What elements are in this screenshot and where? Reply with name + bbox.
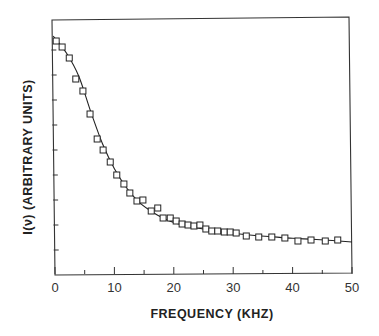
data-point-square (53, 38, 59, 44)
data-point-square (203, 226, 209, 232)
x-tick-label: 40 (285, 280, 299, 295)
data-point-square (221, 229, 227, 235)
data-point-square (269, 234, 275, 240)
data-point-square (197, 222, 203, 228)
data-point-square (335, 237, 341, 243)
data-point-square (160, 215, 166, 221)
data-point-square (127, 190, 133, 196)
data-point-square (282, 235, 288, 241)
data-point-square (134, 198, 140, 204)
y-axis-title: I(ν) (ARBITRARY UNITS) (21, 79, 35, 234)
data-point-square (155, 205, 161, 211)
x-tick-label: 0 (51, 280, 58, 295)
x-tick-label: 50 (345, 280, 359, 295)
data-point-square (215, 228, 221, 234)
x-tick-label: 20 (167, 280, 181, 295)
data-point-square (191, 223, 197, 229)
data-point-square (295, 238, 301, 244)
data-point-square (322, 238, 328, 244)
data-point-square (256, 234, 262, 240)
data-point-square (121, 181, 127, 187)
data-point-square (140, 197, 146, 203)
data-point-square (80, 88, 86, 94)
data-point-square (209, 228, 215, 234)
chart: 01020304050 FREQUENCY (KHZ) I(ν) (ARBITR… (0, 0, 379, 336)
data-point-square (100, 147, 106, 153)
data-point-square (59, 44, 65, 50)
x-tick-label: 30 (226, 280, 240, 295)
data-point-square (167, 215, 173, 221)
data-point-square (173, 218, 179, 224)
data-point-square (107, 159, 113, 165)
data-markers (53, 38, 341, 244)
data-point-square (233, 230, 239, 236)
data-point-square (148, 208, 154, 214)
data-point-square (308, 237, 314, 243)
data-point-square (66, 55, 72, 61)
data-point-square (94, 136, 100, 142)
data-point-square (185, 222, 191, 228)
data-point-square (73, 76, 79, 82)
data-point-square (227, 229, 233, 235)
data-point-square (179, 221, 185, 227)
data-point-square (243, 233, 249, 239)
x-tick-label: 10 (107, 280, 121, 295)
x-axis-title: FREQUENCY (KHZ) (150, 307, 273, 321)
plot-frame (52, 17, 352, 275)
data-point-square (114, 172, 120, 178)
axes-box (52, 17, 352, 275)
x-axis-tick-labels: 01020304050 (51, 280, 359, 295)
data-point-square (87, 111, 93, 117)
